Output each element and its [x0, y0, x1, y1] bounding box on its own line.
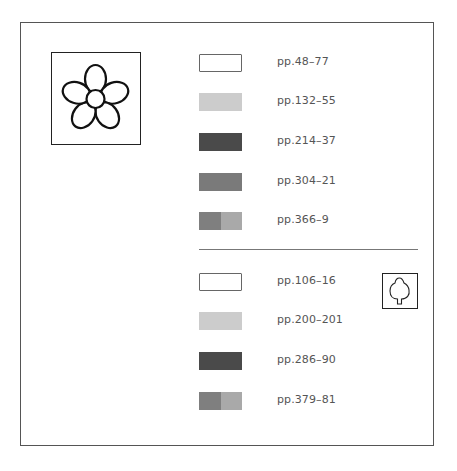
- legend-item: pp.48–77: [199, 54, 242, 72]
- light-gray-swatch: [199, 93, 242, 111]
- flower-icon-box: [51, 52, 141, 145]
- page-range-label: pp.132–55: [277, 94, 336, 107]
- page-range-label: pp.214–37: [277, 134, 336, 147]
- dark-gray-swatch: [199, 133, 242, 151]
- white-swatch: [199, 54, 242, 72]
- legend-item: pp.286–90: [199, 352, 242, 370]
- light-gray-swatch: [199, 312, 242, 330]
- page-range-label: pp.304–21: [277, 174, 336, 187]
- dark-gray-swatch: [199, 352, 242, 370]
- page-range-label: pp.106–16: [277, 274, 336, 287]
- legend-item: pp.106–16: [199, 273, 242, 291]
- page-range-label: pp.48–77: [277, 55, 329, 68]
- page-range-label: pp.379–81: [277, 393, 336, 406]
- flower-icon: [52, 53, 139, 143]
- tree-icon-box: [382, 273, 418, 309]
- tree-icon: [383, 274, 416, 307]
- legend-item: pp.214–37: [199, 133, 242, 151]
- page-range-label: pp.200–201: [277, 313, 343, 326]
- white-swatch: [199, 273, 242, 291]
- split-gray-swatch: [199, 212, 242, 230]
- legend-item: pp.304–21: [199, 173, 242, 191]
- mid-gray-swatch: [199, 173, 242, 191]
- legend-item: pp.200–201: [199, 312, 242, 330]
- section-divider: [199, 249, 418, 250]
- legend-item: pp.132–55: [199, 93, 242, 111]
- page-range-label: pp.286–90: [277, 353, 336, 366]
- legend-item: pp.366–9: [199, 212, 242, 230]
- legend-item: pp.379–81: [199, 392, 242, 410]
- page-range-label: pp.366–9: [277, 213, 329, 226]
- split-gray-swatch: [199, 392, 242, 410]
